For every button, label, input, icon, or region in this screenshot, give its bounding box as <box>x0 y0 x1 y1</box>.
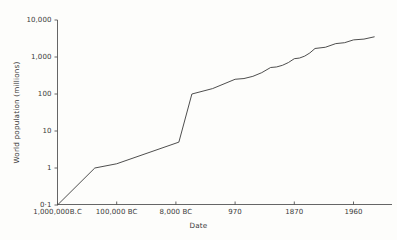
x-tick-label: 1,000,000B.C <box>33 208 82 216</box>
y-tick-label: 10 <box>0 127 52 135</box>
world-population-chart: 10,0001,0001001010·1 1,000,000B.C100,000… <box>0 0 397 240</box>
y-tick-label: 10,000 <box>0 16 52 24</box>
chart-plot-area <box>0 0 397 240</box>
x-tick-label: 1960 <box>344 208 362 216</box>
x-tick-label: 8,000 BC <box>160 208 193 216</box>
y-axis-title: World population (millions) <box>12 53 21 173</box>
population-data-line <box>58 37 375 205</box>
y-tick-label: 1,000 <box>0 53 52 61</box>
x-tick-label: 100,000 BC <box>96 208 138 216</box>
x-tick-label: 1870 <box>285 208 303 216</box>
y-tick-label: 100 <box>0 90 52 98</box>
x-axis-title: Date <box>0 221 397 230</box>
y-tick-label: 1 <box>0 164 52 172</box>
x-tick-label: 970 <box>228 208 242 216</box>
